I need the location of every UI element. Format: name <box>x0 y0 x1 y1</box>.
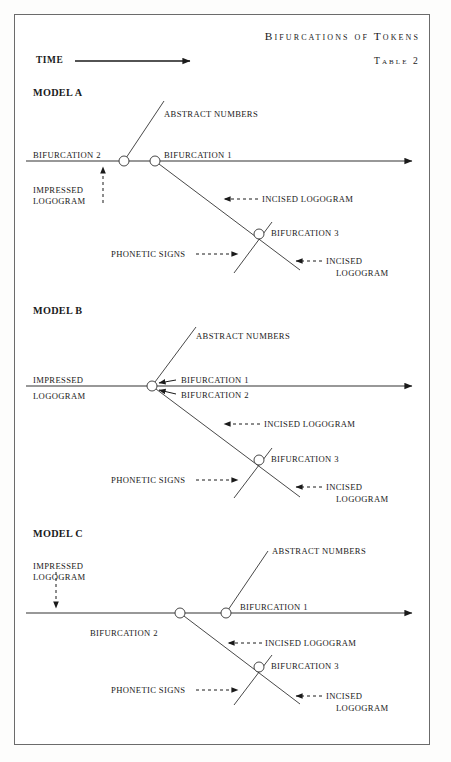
model-c-incised-logogram-upper-label: INCISED LOGOGRAM <box>265 638 356 649</box>
model-b-incised-logogram-upper-label: INCISED LOGOGRAM <box>264 419 355 430</box>
model-c-incised-logogram-lower-label-line2: LOGOGRAM <box>336 703 388 714</box>
figure-page: Bifurcations of Tokens Table 2 TIME MODE… <box>0 0 451 762</box>
model-a-impressed-logogram-label-line2: LOGOGRAM <box>33 196 85 207</box>
model-b-bifurcation-2-label: BIFURCATION 2 <box>181 390 249 401</box>
model-a-bifurcation-2-node <box>119 156 129 166</box>
model-b-bifurcation-1-label: BIFURCATION 1 <box>181 375 249 386</box>
model-a-diagram <box>26 101 412 273</box>
model-a-impressed-logogram-label-line1: IMPRESSED <box>33 185 83 196</box>
model-c-incised-logogram-lower-label-line1: INCISED <box>326 691 362 702</box>
model-a-phonetic-branch <box>234 222 272 273</box>
model-c-bifurcation-2-label: BIFURCATION 2 <box>90 628 158 639</box>
model-a-abstract-branch <box>124 101 164 161</box>
model-a-title: MODEL A <box>33 88 82 99</box>
model-b-incised-logogram-lower-label-line2: LOGOGRAM <box>336 494 388 505</box>
model-a-bifurcation-3-label: BIFURCATION 3 <box>271 228 339 239</box>
model-a-incised-logogram-upper-label: INCISED LOGOGRAM <box>262 194 353 205</box>
model-c-bifurcation-3-label: BIFURCATION 3 <box>271 661 339 672</box>
model-a-bifurcation-1-label: BIFURCATION 1 <box>164 150 232 161</box>
model-c-bifurcation-1-node <box>221 608 231 618</box>
model-c-bifurcation-2-node <box>175 608 185 618</box>
model-a-bifurcation-3-node <box>254 229 264 239</box>
model-c-title: MODEL C <box>33 529 83 540</box>
model-c-bifurcation-1-label: BIFURCATION 1 <box>240 602 308 613</box>
model-a-incised-logogram-lower-label-line1: INCISED <box>326 256 362 267</box>
model-b-impressed-logogram-label-line2: LOGOGRAM <box>33 391 85 402</box>
model-b-diagram <box>26 327 412 498</box>
model-b-incised-logogram-lower-label-line1: INCISED <box>326 482 362 493</box>
model-a-incised-logogram-lower-label-line2: LOGOGRAM <box>336 268 388 279</box>
model-a-bifurcation-1-node <box>150 156 160 166</box>
model-c-bifurcation-3-node <box>254 662 264 672</box>
model-b-phonetic-branch <box>234 448 272 498</box>
figure-title: Bifurcations of Tokens <box>265 31 420 42</box>
model-b-bifurcation-3-label: BIFURCATION 3 <box>271 454 339 465</box>
model-c-abstract-numbers-label: ABSTRACT NUMBERS <box>272 546 366 557</box>
model-a-bifurcation-2-label: BIFURCATION 2 <box>33 150 101 161</box>
model-a-abstract-numbers-label: ABSTRACT NUMBERS <box>164 109 258 120</box>
model-b-impressed-logogram-label-line1: IMPRESSED <box>33 375 83 386</box>
figure-table-label: Table 2 <box>374 56 420 67</box>
model-a-phonetic-signs-label: PHONETIC SIGNS <box>111 249 185 260</box>
model-c-phonetic-signs-label: PHONETIC SIGNS <box>111 685 185 696</box>
model-b-bifurcation-3-node <box>254 455 264 465</box>
time-axis-label: TIME <box>36 55 63 66</box>
model-c-phonetic-branch <box>234 655 272 705</box>
model-c-impressed-logogram-label-line2: LOGOGRAM <box>33 572 85 583</box>
model-b-bifurcation-1-arrow <box>159 380 176 383</box>
model-b-title: MODEL B <box>33 306 82 317</box>
model-b-bifurcation-junction-node <box>147 381 157 391</box>
model-c-impressed-logogram-label-line1: IMPRESSED <box>33 561 83 572</box>
model-b-abstract-numbers-label: ABSTRACT NUMBERS <box>196 331 290 342</box>
model-b-phonetic-signs-label: PHONETIC SIGNS <box>111 475 185 486</box>
